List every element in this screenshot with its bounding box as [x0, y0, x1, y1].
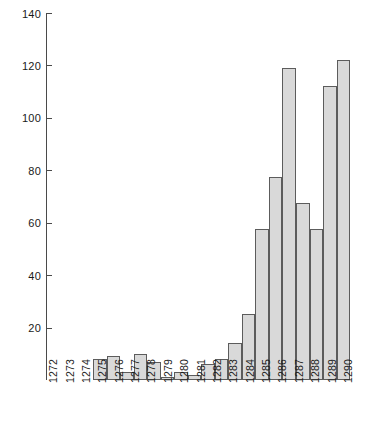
- x-axis-tick-label: 1286: [277, 359, 288, 383]
- x-axis-tick-label: 1287: [294, 359, 305, 383]
- bar[interactable]: [337, 60, 351, 380]
- plot-area: [46, 13, 358, 380]
- bar-slot: [310, 13, 324, 380]
- y-axis-tick-label: 40: [28, 270, 41, 281]
- bar-slot: [269, 13, 283, 380]
- bar-series: [93, 13, 350, 380]
- bar[interactable]: [282, 68, 296, 380]
- bar-slot: [337, 13, 351, 380]
- x-axis-tick-label: 1275: [97, 359, 108, 383]
- x-axis-tick-label: 1279: [163, 359, 174, 383]
- x-axis-tick-label: 1276: [114, 359, 125, 383]
- y-axis-tick-label: 120: [22, 60, 41, 71]
- bar[interactable]: [310, 229, 324, 380]
- bar-slot: [147, 13, 161, 380]
- y-axis-tick-label: 140: [22, 8, 41, 19]
- bar-slot: [120, 13, 134, 380]
- x-axis-tick-label: 1281: [195, 359, 206, 383]
- bar-chart: 20406080100120140 1272127312741275127612…: [0, 0, 366, 428]
- y-axis-tick-label: 20: [28, 323, 41, 334]
- x-axis-tick-label: 1273: [64, 359, 75, 383]
- bar-slot: [107, 13, 121, 380]
- y-axis-tick-label: 80: [28, 165, 41, 176]
- x-axis-tick-label: 1277: [130, 359, 141, 383]
- bar-slot: [296, 13, 310, 380]
- x-axis-tick-label: 1272: [48, 359, 59, 383]
- bar-slot: [242, 13, 256, 380]
- x-axis-tick-label: 1288: [310, 359, 321, 383]
- y-axis-tick-label: 60: [28, 218, 41, 229]
- bar-slot: [215, 13, 229, 380]
- x-axis-tick-label: 1289: [326, 359, 337, 383]
- x-axis-tick-label: 1280: [179, 359, 190, 383]
- bar[interactable]: [296, 203, 310, 380]
- bar-slot: [201, 13, 215, 380]
- x-axis-tick-label: 1290: [343, 359, 354, 383]
- bar-slot: [255, 13, 269, 380]
- x-axis-tick-label: 1278: [146, 359, 157, 383]
- bar-slot: [134, 13, 148, 380]
- bar-slot: [174, 13, 188, 380]
- bar-slot: [161, 13, 175, 380]
- x-axis-tick-label: 1274: [81, 359, 92, 383]
- bar-slot: [93, 13, 107, 380]
- bar-slot: [188, 13, 202, 380]
- x-axis-tick-label: 1284: [245, 359, 256, 383]
- x-axis-tick-label: 1282: [212, 359, 223, 383]
- bar[interactable]: [255, 229, 269, 380]
- bar-slot: [323, 13, 337, 380]
- bar[interactable]: [269, 177, 283, 380]
- x-axis-tick-label: 1285: [261, 359, 272, 383]
- y-axis-tick-label: 100: [22, 113, 41, 124]
- caption-strip: [0, 414, 366, 428]
- bar-slot: [228, 13, 242, 380]
- bar-slot: [282, 13, 296, 380]
- bar[interactable]: [323, 86, 337, 380]
- x-axis-tick-label: 1283: [228, 359, 239, 383]
